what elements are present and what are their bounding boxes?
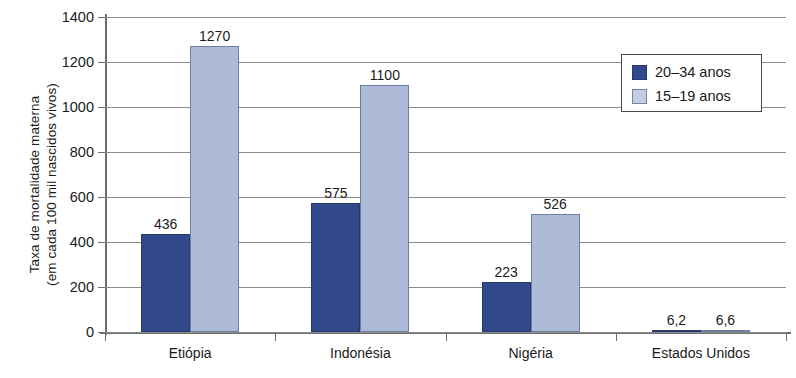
x-axis-tick-mark — [446, 333, 447, 341]
legend-swatch-icon-series-b — [632, 89, 647, 104]
y-axis-tick-label: 600 — [70, 189, 94, 205]
bar-value-label: 436 — [154, 216, 177, 232]
legend-item-series-b: 15–19 anos — [632, 84, 761, 108]
x-axis-tick-mark — [105, 333, 106, 341]
x-axis-tick-mark — [616, 333, 617, 341]
bar-value-label: 223 — [494, 264, 517, 280]
bar: 223 — [482, 282, 531, 332]
bar: 6,6 — [701, 330, 750, 333]
y-axis-tick-label: 800 — [70, 144, 94, 160]
bar-value-label: 1270 — [199, 28, 230, 44]
bar: 6,2 — [652, 330, 701, 333]
legend-swatch-icon-series-a — [632, 65, 647, 80]
y-axis-tick-label: 1000 — [62, 99, 94, 115]
x-axis-category-label: Estados Unidos — [652, 345, 750, 361]
x-axis-category-label: Nigéria — [508, 345, 552, 361]
x-axis-tick-mark — [786, 333, 787, 341]
y-axis-tick-label: 400 — [70, 234, 94, 250]
gridline: 1400 — [105, 17, 786, 18]
chart-legend: 20–34 anos 15–19 anos — [621, 54, 762, 112]
bar-value-label: 6,6 — [716, 312, 735, 328]
y-axis-tick-label: 1400 — [62, 9, 94, 25]
y-axis-tick-mark — [98, 332, 105, 333]
x-axis-tick-mark — [275, 333, 276, 341]
legend-label-series-a: 20–34 anos — [655, 64, 731, 80]
y-axis-tick-mark — [98, 242, 105, 243]
y-axis-tick-mark — [98, 197, 105, 198]
y-axis-tick-mark — [98, 287, 105, 288]
y-axis-tick-label: 0 — [86, 324, 94, 340]
y-axis-tick-mark — [98, 17, 105, 18]
y-axis-tick-mark — [98, 152, 105, 153]
x-axis-category-label: Etiópia — [169, 345, 212, 361]
y-axis-tick-label: 1200 — [62, 54, 94, 70]
y-axis-title: Taxa de mortalidade materna (em cada 100… — [27, 20, 60, 350]
bar: 526 — [531, 214, 580, 332]
y-axis-title-line-1: Taxa de mortalidade materna — [27, 20, 44, 350]
x-axis-category-label: Indonésia — [330, 345, 391, 361]
bar: 575 — [311, 203, 360, 332]
bar-value-label: 575 — [324, 185, 347, 201]
y-axis-title-line-2: (em cada 100 mil nascidos vivos) — [43, 20, 60, 350]
bar: 1100 — [360, 85, 409, 333]
y-axis-tick-mark — [98, 62, 105, 63]
legend-item-series-a: 20–34 anos — [632, 60, 761, 84]
bar-value-label: 526 — [543, 196, 566, 212]
bar: 1270 — [190, 46, 239, 332]
y-axis-tick-mark — [98, 107, 105, 108]
bar-value-label: 1100 — [370, 67, 400, 83]
bar-chart: Taxa de mortalidade materna (em cada 100… — [0, 0, 796, 378]
y-axis-tick-label: 200 — [70, 279, 94, 295]
bar: 436 — [141, 234, 190, 332]
bar-value-label: 6,2 — [667, 312, 686, 328]
legend-label-series-b: 15–19 anos — [655, 88, 731, 104]
